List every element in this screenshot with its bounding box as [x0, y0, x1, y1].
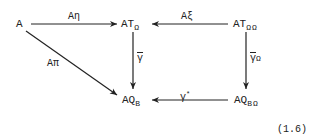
equation-number: (1.6)	[277, 124, 307, 135]
node-at-omega-omega: ATΩΩ	[233, 18, 257, 34]
node-aq-b-omega-sub: B	[247, 99, 252, 108]
node-aq-b-omega-base: AQ	[234, 94, 247, 106]
node-aq-b-sub: B	[135, 99, 140, 108]
node-at-omega-base: AT	[121, 18, 134, 30]
node-at-omega-omega-extra: Ω	[252, 23, 257, 32]
label-a-xi: Aξ	[181, 11, 193, 22]
label-gamma-bar: γ	[137, 53, 143, 64]
label-a-pi: Aπ	[47, 58, 59, 69]
node-aq-b-base: AQ	[122, 94, 135, 106]
node-aq-b-omega: AQBΩ	[234, 94, 258, 110]
arrow-a-pi	[26, 31, 117, 95]
label-a-eta: Aη	[68, 11, 80, 22]
label-gamma-star: γ*	[180, 89, 190, 103]
arrows-layer	[0, 0, 316, 140]
node-aq-b: AQB	[122, 94, 140, 110]
node-at-omega: ATΩ	[121, 18, 139, 34]
label-gamma-bar-omega: γΩ	[250, 53, 261, 64]
node-a-label: A	[16, 18, 23, 30]
node-a: A	[16, 18, 23, 30]
label-gamma-star-sup: *	[186, 90, 190, 98]
node-at-omega-sub: Ω	[134, 23, 139, 32]
node-at-omega-omega-sub: Ω	[246, 23, 251, 32]
node-aq-b-omega-extra: Ω	[253, 99, 258, 108]
node-at-omega-omega-base: AT	[233, 18, 246, 30]
label-gamma-bar-omega-suffix: Ω	[256, 54, 261, 63]
